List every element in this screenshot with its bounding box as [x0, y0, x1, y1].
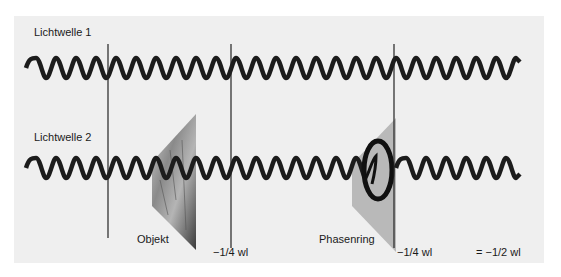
phase-shift-label-2: −1/4 wl: [397, 246, 432, 258]
wave-2-label: Lichtwelle 2: [34, 131, 91, 143]
total-shift-label: = −1/2 wl: [476, 246, 521, 258]
phase-shift-label-1: −1/4 wl: [213, 246, 248, 258]
object-label: Objekt: [137, 233, 169, 245]
light-wave-1: [26, 58, 520, 78]
wave-1-label: Lichtwelle 1: [34, 26, 91, 38]
phase-ring-label: Phasenring: [319, 233, 375, 245]
